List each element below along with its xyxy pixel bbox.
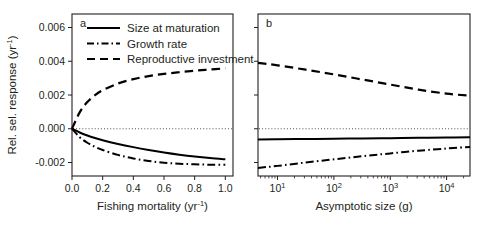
panel-b-curve-solid <box>258 137 470 139</box>
panel-b-x-tick-label-1: 102 <box>326 181 342 194</box>
panel-b: 101102103104b <box>254 14 470 194</box>
y-tick-label-3: 0.000 <box>39 122 65 134</box>
y-tick-label-0: 0.006 <box>39 21 65 33</box>
panel-a-x-tick-label-0: 0.0 <box>65 182 80 194</box>
panel-a-x-tick-label-3: 0.6 <box>157 182 172 194</box>
legend-label-0: Size at maturation <box>127 22 220 34</box>
y-tick-label-1: 0.004 <box>39 55 65 67</box>
chart-canvas: 0.0060.0040.0020.000-0.0020.00.20.40.60.… <box>0 0 481 225</box>
panel-a-curve-dashed <box>72 68 225 128</box>
panel-a-x-tick-label-1: 0.2 <box>95 182 110 194</box>
legend: Size at maturationGrowth rateReproductiv… <box>87 22 254 65</box>
panel-b-letter: b <box>266 17 272 29</box>
y-tick-label-2: 0.002 <box>39 89 65 101</box>
panel-b-frame <box>258 14 470 176</box>
panel-a-curve-dashdot <box>72 129 225 165</box>
figure-container: 0.0060.0040.0020.000-0.0020.00.20.40.60.… <box>0 0 481 225</box>
panel-a-x-tick-label-2: 0.4 <box>126 182 141 194</box>
panel-b-x-tick-label-0: 101 <box>270 181 286 194</box>
panel-b-x-tick-label-2: 103 <box>382 181 398 194</box>
panel-a-curve-solid <box>72 129 225 160</box>
legend-label-1: Growth rate <box>127 38 187 50</box>
panel-a-x-axis-title: Fishing mortality (yr-1) <box>97 199 208 212</box>
panel-b-x-tick-label-3: 104 <box>439 181 455 194</box>
y-tick-label-4: -0.002 <box>35 156 65 168</box>
legend-label-2: Reproductive investment <box>127 53 254 65</box>
panel-a-letter: a <box>80 17 87 29</box>
panel-b-curve-dashdot <box>258 147 470 168</box>
panel-a-x-tick-label-5: 1.0 <box>218 182 233 194</box>
panel-a-x-tick-label-4: 0.8 <box>187 182 202 194</box>
panel-b-curve-dashed <box>258 63 470 96</box>
panel-b-x-axis-title: Asymptotic size (g) <box>315 200 412 212</box>
y-axis-title: Rel. sel. response (yr-1) <box>5 35 18 154</box>
